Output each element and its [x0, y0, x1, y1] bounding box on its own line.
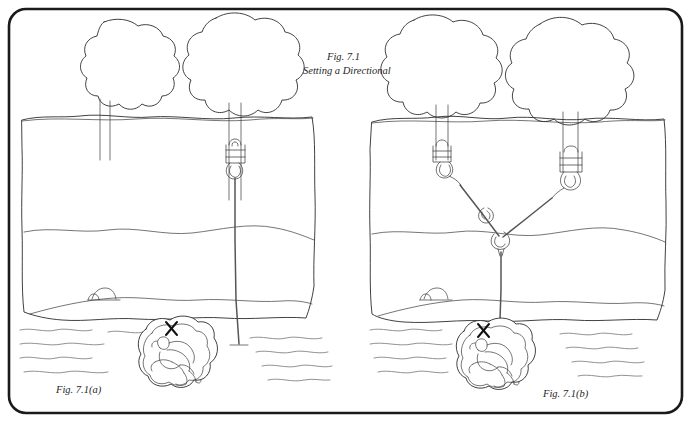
raft-outline-left — [138, 316, 217, 387]
figure-title-line1: Fig. 7.1 — [326, 51, 360, 62]
illustration-canvas: Fig. 7.1 Setting a Directional Fig. 7.1(… — [0, 0, 691, 424]
paper-background — [0, 0, 691, 424]
figure-illustration: Fig. 7.1 Setting a Directional Fig. 7.1(… — [0, 0, 691, 424]
figure-title-line2: Setting a Directional — [303, 65, 391, 76]
caption-panel-b: Fig. 7.1(b) — [542, 388, 589, 400]
raft-outline-right — [456, 318, 535, 389]
raft-right — [456, 318, 535, 389]
raft-left — [138, 316, 217, 387]
caption-panel-a: Fig. 7.1(a) — [55, 384, 102, 396]
